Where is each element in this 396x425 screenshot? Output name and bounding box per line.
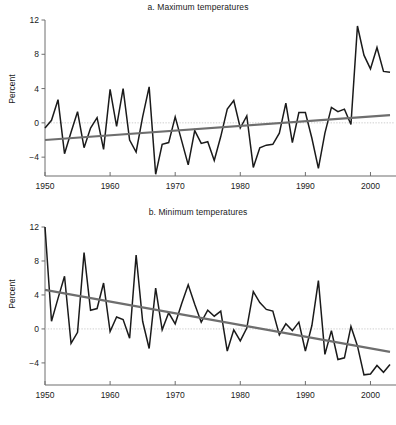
panel-a-plot-area: 12840−4195019601970198019902000 — [0, 0, 396, 200]
x-tick-label: 1970 — [166, 181, 185, 191]
x-tick-label: 1950 — [36, 390, 55, 400]
y-tick-label: 12 — [30, 15, 40, 25]
y-tick-label: −4 — [29, 152, 39, 162]
panel-b-svg: 12840−4195019601970198019902000 — [0, 205, 396, 405]
data-line — [45, 26, 390, 174]
x-tick-label: 1970 — [166, 390, 185, 400]
x-tick-label: 1980 — [231, 390, 250, 400]
x-tick-label: 1990 — [296, 181, 315, 191]
y-tick-label: 8 — [34, 256, 39, 266]
panel-a-svg: 12840−4195019601970198019902000 — [0, 0, 396, 200]
data-line — [45, 227, 390, 375]
y-tick-label: 0 — [34, 324, 39, 334]
temperature-trends-figure: a. Maximum temperatures Percent 12840−41… — [0, 0, 396, 425]
panel-b-plot-area: 12840−4195019601970198019902000 — [0, 205, 396, 405]
x-tick-label: 1980 — [231, 181, 250, 191]
x-tick-label: 1990 — [296, 390, 315, 400]
x-tick-label: 1960 — [101, 390, 120, 400]
y-tick-label: 0 — [34, 118, 39, 128]
y-tick-label: 4 — [34, 84, 39, 94]
y-tick-label: 4 — [34, 290, 39, 300]
x-tick-label: 2000 — [361, 390, 380, 400]
x-tick-label: 2000 — [361, 181, 380, 191]
y-tick-label: 12 — [30, 222, 40, 232]
y-tick-label: −4 — [29, 358, 39, 368]
trend-line — [45, 290, 390, 352]
chart-panel-maximum-temperatures: a. Maximum temperatures Percent 12840−41… — [0, 0, 396, 200]
x-tick-label: 1950 — [36, 181, 55, 191]
chart-panel-minimum-temperatures: b. Minimum temperatures Percent 12840−41… — [0, 205, 396, 405]
x-tick-label: 1960 — [101, 181, 120, 191]
y-tick-label: 8 — [34, 49, 39, 59]
